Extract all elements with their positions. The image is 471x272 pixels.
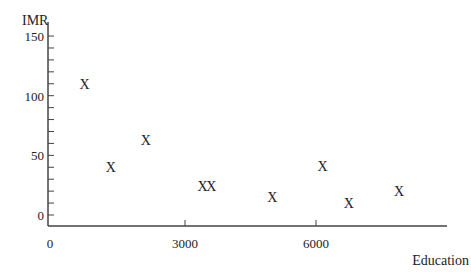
x-tick-label: 3000 [172,236,198,251]
x-tick-label: 6000 [303,236,329,251]
x-axis-label: Education [412,253,469,268]
data-point-marker: X [344,196,354,211]
data-point-marker: X [206,179,216,194]
data-points: XXXXXXXXX [80,77,405,211]
data-point-marker: X [106,160,116,175]
y-tick-label: 0 [38,208,45,223]
x-tick-label: 0 [47,236,54,251]
axes: 050100150030006000 [25,22,448,251]
y-axis-label: IMR [22,13,49,28]
data-point-marker: X [318,159,328,174]
y-tick-label: 150 [25,29,45,44]
data-point-marker: X [394,184,404,199]
y-tick-label: 100 [25,89,45,104]
data-point-marker: X [267,190,277,205]
y-tick-label: 50 [31,148,44,163]
scatter-chart: 050100150030006000 XXXXXXXXX IMR Educati… [0,0,471,272]
data-point-marker: X [80,77,90,92]
data-point-marker: X [141,133,151,148]
